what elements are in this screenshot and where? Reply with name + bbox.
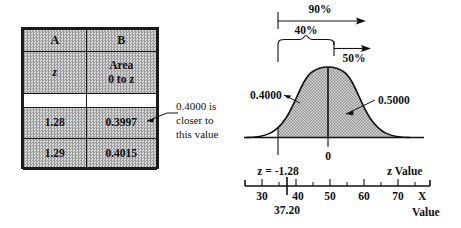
subheader-b: Area 0 to z — [86, 52, 156, 94]
x-axis-label-line2: Value — [412, 206, 440, 218]
x-tick-label-70: 70 — [392, 190, 404, 202]
table-row: 1.29 0.4015 — [24, 139, 157, 170]
bracket-40-percent: 40% — [278, 24, 334, 62]
table-row-headers: A B — [24, 30, 157, 52]
cell-area-2: 0.4015 — [86, 139, 156, 170]
subheader-b-line1: Area — [87, 59, 156, 73]
bracket-50-percent: 50% — [334, 41, 371, 64]
x-tick-label-40: 40 — [292, 190, 304, 202]
area-label-right-text: 0.5000 — [378, 94, 410, 106]
x-tick-label-60: 60 — [358, 190, 370, 202]
column-header-a: A — [24, 30, 87, 52]
table-row: 1.28 0.3997 — [24, 108, 157, 139]
bracket-90-percent: 90% — [278, 3, 366, 29]
z-table-grid: A B z Area 0 to z 1.28 — [23, 29, 157, 170]
x-special-tick-label: 37.20 — [274, 204, 300, 216]
x-value-ruler: 30 40 50 60 70 37.20 X Value — [245, 177, 440, 218]
subheader-a-line1: z — [53, 66, 57, 78]
brace-40 — [278, 36, 334, 46]
table-row-gap — [24, 94, 157, 108]
cell-z-2: 1.29 — [24, 139, 87, 170]
table-row-subheaders: z Area 0 to z — [24, 52, 157, 94]
gap-cell-a — [24, 94, 87, 108]
bracket-50-label: 50% — [343, 52, 366, 64]
x-axis-label-line1: X — [418, 190, 427, 202]
x-tick-label-30: 30 — [256, 190, 268, 202]
z-cut-label: z = -1.28 — [257, 165, 299, 177]
bracket-90-label: 90% — [309, 3, 332, 15]
figure-canvas: A B z Area 0 to z 1.28 — [0, 0, 461, 228]
z-table: A B z Area 0 to z 1.28 — [21, 27, 159, 169]
column-header-b: B — [86, 30, 156, 52]
x-tick-label-50: 50 — [324, 190, 336, 202]
gap-cell-b — [86, 94, 156, 108]
bracket-40-label: 40% — [295, 24, 318, 36]
cell-area-1: 0.3997 — [86, 108, 156, 139]
area-label-left-text: 0.4000 — [250, 89, 282, 101]
area-label-0.4000: 0.4000 — [250, 89, 300, 103]
cell-z-1: 1.28 — [24, 108, 87, 139]
z-axis-origin-label: 0 — [325, 150, 331, 162]
z-axis-label: z Value — [387, 165, 422, 177]
subheader-b-line2: 0 to z — [87, 73, 156, 87]
subheader-a: z — [24, 52, 87, 94]
normal-curve-diagram: 90% 40% 50% — [232, 0, 461, 228]
